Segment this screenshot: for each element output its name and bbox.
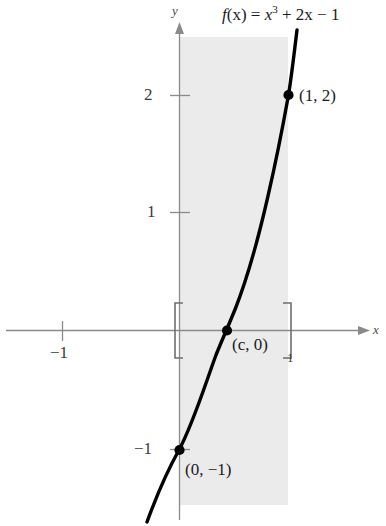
y-tick-label-2: 2 xyxy=(144,86,153,103)
y-axis-label: y xyxy=(172,4,178,17)
y-tick-label-1: 1 xyxy=(147,203,156,220)
interval-right-endpoint-label: 1 xyxy=(287,351,294,364)
y-tick-label-minus-1: −1 xyxy=(134,440,152,457)
point-marker-upper-endpoint xyxy=(283,90,293,100)
point-label-upper-endpoint: (1, 2) xyxy=(299,87,336,104)
point-marker-root xyxy=(222,325,232,335)
equation-arg: (x) = xyxy=(227,5,265,24)
x-axis-label: x xyxy=(373,323,379,336)
point-label-root: (c, 0) xyxy=(232,336,268,353)
point-marker-lower-endpoint xyxy=(174,445,184,455)
equation-label: f(x) = x3 + 2x − 1 xyxy=(222,6,339,23)
point-label-lower-endpoint: (0, −1) xyxy=(185,461,231,478)
function-graph-figure: f(x) = x3 + 2x − 1 y x 2 1 −1 −1 1 (1, 2… xyxy=(0,0,386,526)
shaded-interval-band xyxy=(179,37,288,505)
equation-tail: + 2x − 1 xyxy=(278,5,340,24)
graph-canvas xyxy=(0,0,386,526)
x-tick-label-minus-1: −1 xyxy=(50,344,68,361)
